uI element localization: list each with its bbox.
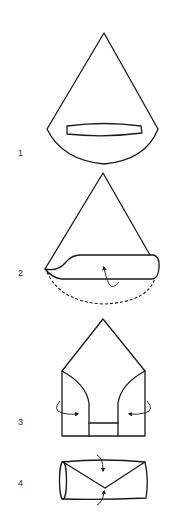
folding-diagram: 1 2 3 4	[0, 0, 180, 532]
step-1-label: 1	[18, 148, 23, 158]
right-flap-edge	[118, 371, 145, 436]
step-2: 2	[18, 173, 159, 304]
cone-outline	[47, 33, 158, 164]
slot-shape	[67, 124, 142, 136]
right-fold-arrow-icon	[130, 401, 151, 414]
step-4-label: 4	[18, 478, 23, 488]
fold-up-arrow-icon	[104, 268, 119, 287]
left-fold-arrow-icon	[56, 401, 77, 414]
pentagon-outline	[62, 319, 145, 436]
fold-up-arrow-icon	[97, 492, 104, 505]
step-2-label: 2	[18, 268, 23, 278]
step-4: 4	[18, 455, 147, 505]
tube-end-cap	[60, 462, 67, 499]
step-1: 1	[18, 33, 158, 164]
envelope-v-fold	[63, 462, 145, 488]
original-edge-dashed	[47, 272, 155, 304]
tube-outline	[62, 460, 147, 499]
fold-down-arrow-icon	[97, 455, 103, 470]
step-3: 3	[18, 319, 151, 436]
left-flap-edge	[62, 371, 89, 436]
step-3-label: 3	[18, 417, 23, 427]
folded-band	[45, 255, 159, 279]
